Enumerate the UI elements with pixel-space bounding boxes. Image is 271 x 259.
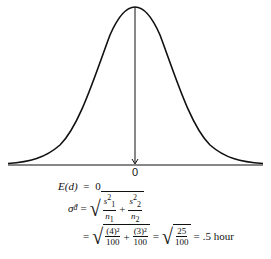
axis-zero-label: 0: [132, 166, 138, 178]
frac-3sq-100: (3)² 100: [133, 226, 148, 247]
equals: =: [80, 202, 86, 214]
normal-curve-figure: [0, 0, 271, 180]
frac-s2-n2: s22 n2: [128, 193, 142, 225]
sqrt: √ (4)² 100 + (3)² 100: [92, 224, 150, 247]
equals: =: [194, 230, 200, 242]
numeric-computation: = √ (4)² 100 + (3)² 100 = √ 25 100 = .5 …: [80, 224, 234, 247]
std-error-formula: σ̂d = √ s21 n1 + s22 n2: [68, 191, 144, 225]
radical-icon: √: [92, 226, 103, 246]
equals: =: [153, 230, 159, 242]
frac-s1-n1: s21 n1: [103, 193, 117, 225]
result-value: .5 hour: [203, 230, 234, 242]
radical-icon: √: [90, 198, 101, 218]
sqrt: √ 25 100: [162, 224, 190, 247]
radical-icon: √: [162, 226, 173, 246]
equals: =: [83, 230, 89, 242]
frac-4sq-100: (4)² 100: [105, 226, 120, 247]
sqrt: √ s21 n1 + s22 n2: [90, 191, 144, 225]
frac-25-100: 25 100: [175, 226, 189, 247]
sigma-sub: d: [73, 203, 77, 212]
